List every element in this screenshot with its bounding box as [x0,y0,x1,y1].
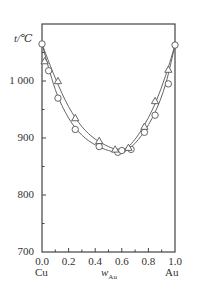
y-tick-label: 900 [0,131,34,143]
y-tick-label: 800 [0,188,34,200]
x-axis-label-sub: Au [108,273,117,281]
y-axis-label: t/℃ [14,32,32,45]
circle-marker [141,129,147,135]
circle-marker [119,147,125,153]
x-tick-label: 0.8 [136,255,160,267]
x-tick-label: 0.2 [57,255,81,267]
triangle-marker [165,66,172,72]
circle-marker [39,41,45,47]
circle-marker [72,126,78,132]
triangle-marker [141,123,148,129]
y-tick-label: 1 000 [0,74,34,86]
plot-border [42,24,175,252]
y-tick-label: 700 [0,245,34,257]
circle-marker [152,112,158,118]
circle-marker [55,95,61,101]
plot-frame [42,24,175,252]
x-axis-label: wAu [101,266,117,281]
circle-marker [45,68,51,74]
circle-marker [172,42,178,48]
x-end-label-left: Cu [35,266,48,278]
circle-marker [165,81,171,87]
triangle-marker [72,114,79,120]
circle-marker [96,143,102,149]
x-end-label-right: Au [165,266,178,278]
